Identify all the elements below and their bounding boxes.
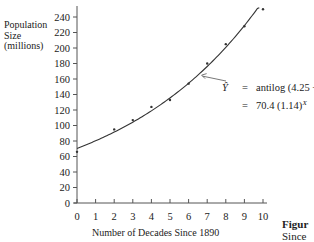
x-tick-label: 10 — [258, 211, 269, 222]
data-point — [132, 119, 134, 121]
y-tick-label: 160 — [54, 74, 70, 85]
figure-caption: Figur Since — [282, 218, 308, 242]
equation-equals-2: = — [242, 99, 256, 113]
y-axis-label-line-1: Population — [4, 20, 47, 31]
x-tick-label: 0 — [74, 211, 79, 222]
tick-marks: 0204060801001201401601802002202400123456… — [54, 12, 268, 223]
y-tick-label: 180 — [54, 58, 70, 69]
x-tick-label: 1 — [93, 211, 98, 222]
x-tick-label: 6 — [186, 211, 191, 222]
figure-caption-label: Figur — [282, 218, 308, 230]
y-tick-label: 120 — [54, 105, 70, 116]
x-tick-label: 3 — [130, 211, 135, 222]
x-tick-label: 5 — [167, 211, 172, 222]
fitted-curve — [77, 8, 259, 149]
y-axis-label: Population Size (millions) — [4, 20, 47, 52]
equation-lhs: Ŷ — [222, 81, 242, 95]
data-point — [76, 151, 78, 153]
data-point — [169, 99, 171, 101]
y-tick-label: 40 — [60, 167, 71, 178]
equation-line-1: Ŷ=antilog (4.25 + .13X) — [222, 81, 314, 95]
exponent: X — [302, 98, 306, 106]
equation-line-2: =70.4 (1.14)X — [222, 95, 314, 113]
data-point — [225, 43, 227, 45]
y-tick-label: 140 — [54, 89, 70, 100]
data-point — [262, 8, 264, 10]
equation-rhs-2: 70.4 (1.14)X — [256, 100, 307, 111]
y-tick-label: 220 — [54, 27, 70, 38]
y-tick-label: 240 — [54, 12, 70, 23]
y-tick-label: 200 — [54, 43, 70, 54]
y-tick-label: 0 — [65, 198, 70, 209]
x-tick-label: 7 — [205, 211, 210, 222]
annotation-arrow — [202, 74, 226, 81]
data-point — [206, 62, 208, 64]
data-point — [150, 106, 152, 108]
data-point — [243, 25, 245, 27]
x-tick-label: 8 — [223, 211, 228, 222]
equation-equals: = — [242, 81, 256, 95]
x-tick-label: 9 — [242, 211, 247, 222]
y-tick-label: 80 — [60, 136, 71, 147]
y-axis-label-line-3: (millions) — [4, 41, 47, 52]
y-tick-label: 20 — [60, 182, 71, 193]
x-tick-label: 4 — [149, 211, 155, 222]
y-tick-label: 100 — [54, 120, 70, 131]
equation-rhs-1: antilog (4.25 + .13X) — [256, 82, 314, 93]
y-tick-label: 60 — [60, 151, 71, 162]
data-point — [187, 82, 189, 84]
x-axis-label: Number of Decades Since 1890 — [92, 227, 219, 238]
figure-caption-text: Since — [282, 230, 306, 242]
fitted-curve-path — [77, 8, 259, 149]
x-tick-label: 2 — [112, 211, 117, 222]
data-point — [113, 128, 115, 130]
equation-annotation: Ŷ=antilog (4.25 + .13X) =70.4 (1.14)X — [222, 81, 314, 113]
